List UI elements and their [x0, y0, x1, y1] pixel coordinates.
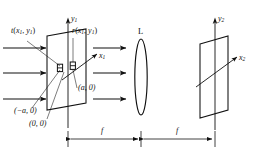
label-focal-length-left: f	[101, 127, 103, 135]
output-transform-plane	[200, 36, 228, 118]
label-point-minus-a: (−a, 0)	[14, 107, 37, 115]
label-point-plus-a: (a, 0)	[78, 84, 95, 92]
incident-plane-wave-arrows	[3, 48, 46, 99]
aperture-object	[70, 62, 75, 69]
label-reference-function: r(x1, y1)	[72, 27, 97, 35]
x2-axis	[196, 57, 237, 87]
label-axis-y1: y1	[71, 15, 77, 23]
optical-system-diagram	[0, 0, 265, 156]
x1-axis	[62, 54, 97, 80]
label-transmittance-function: t(x1, y1)	[11, 27, 35, 35]
figure-root: t(x1, y1) r(x1, y1) y1 x1 y2 x2 L (−a, 0…	[0, 0, 265, 156]
label-axis-x2: x2	[239, 54, 245, 62]
label-focal-length-right: f	[176, 127, 178, 135]
label-lens: L	[138, 27, 143, 36]
dimension-line-left	[68, 131, 141, 147]
label-point-origin: (0, 0)	[29, 120, 46, 128]
dimension-line-right	[144, 131, 215, 147]
label-axis-x1: x1	[99, 52, 105, 60]
input-transparency-plane	[47, 29, 86, 110]
aperture-reference	[57, 64, 62, 71]
propagating-wave-arrows	[93, 48, 126, 99]
converging-lens	[135, 39, 147, 115]
y1-axis	[66, 18, 71, 129]
label-axis-y2: y2	[218, 15, 224, 23]
